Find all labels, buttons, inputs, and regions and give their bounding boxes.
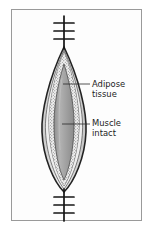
figure-root: Adipose tissue Muscle intact — [0, 0, 155, 236]
label-adipose-tissue: Adipose tissue — [92, 79, 125, 99]
label-muscle-line2: intact — [92, 128, 121, 138]
suture-bottom — [54, 189, 74, 221]
incision-illustration — [0, 0, 155, 236]
label-adipose-line1: Adipose — [92, 79, 125, 89]
label-muscle-line1: Muscle — [92, 118, 121, 128]
suture-top — [54, 16, 74, 49]
label-adipose-line2: tissue — [92, 89, 125, 99]
label-muscle-intact: Muscle intact — [92, 118, 121, 138]
